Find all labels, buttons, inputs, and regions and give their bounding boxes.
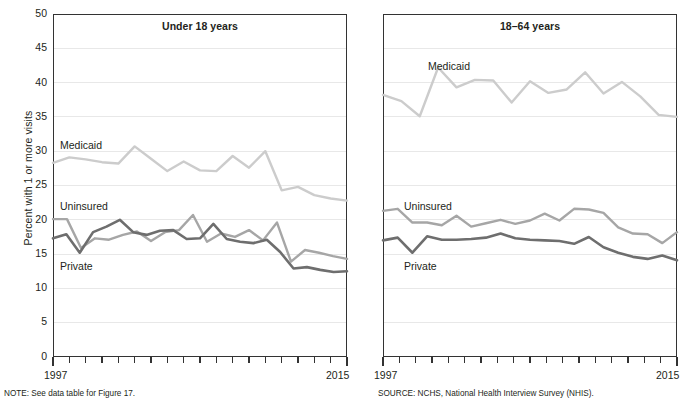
y-tick-30: 30 [21, 144, 47, 156]
series-line-under-18-private [53, 220, 347, 272]
y-tick-20: 20 [21, 213, 47, 225]
y-tick-40: 40 [21, 76, 47, 88]
series-line-18-64-private [383, 234, 677, 261]
panel-title-under-18: Under 18 years [53, 20, 347, 32]
series-label-medicaid-under18: Medicaid [60, 139, 102, 151]
series-line-under-18-medicaid [53, 146, 347, 200]
series-label-medicaid-1864: Medicaid [428, 60, 470, 72]
panel-title-18-64: 18–64 years [383, 20, 677, 32]
x-axis-end-label-left: 2015 [326, 369, 349, 381]
figure-note: NOTE: See data table for Figure 17. [4, 389, 135, 398]
series-label-private-under18: Private [60, 260, 93, 272]
series-line-18-64-uninsured [383, 209, 677, 243]
series-label-uninsured-under18: Uninsured [60, 200, 108, 212]
figure-root: Percent with 1 or more visits 0 5 10 15 … [0, 0, 692, 405]
plot-frame-under-18 [54, 15, 347, 357]
series-line-under-18-uninsured [53, 215, 347, 262]
y-tick-45: 45 [21, 41, 47, 53]
clipped-top-text [40, 0, 340, 4]
x-axis-start-label-right: 1997 [374, 369, 397, 381]
y-tick-5: 5 [21, 315, 47, 327]
y-tick-25: 25 [21, 178, 47, 190]
y-tick-35: 35 [21, 110, 47, 122]
y-tick-0: 0 [21, 350, 47, 362]
y-tick-10: 10 [21, 281, 47, 293]
x-axis-start-label-left: 1997 [44, 369, 67, 381]
x-axis-end-label-right: 2015 [656, 369, 679, 381]
y-tick-50: 50 [21, 7, 47, 19]
series-label-private-1864: Private [404, 260, 437, 272]
series-line-18-64-medicaid [383, 68, 677, 117]
figure-source: SOURCE: NCHS, National Health Interview … [378, 389, 594, 398]
y-axis-tick-labels: 0 5 10 15 20 25 30 35 40 45 50 [17, 0, 47, 405]
series-label-uninsured-1864: Uninsured [404, 200, 452, 212]
y-tick-15: 15 [21, 247, 47, 259]
